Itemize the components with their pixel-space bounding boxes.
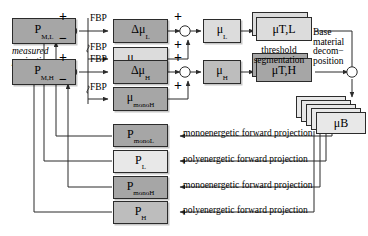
node-p-high: PH — [113, 201, 168, 224]
figure-canvas: PM,L measured projections PM,H + − + − +… — [0, 0, 368, 236]
stack-sheet-1: μB — [316, 112, 366, 134]
wire-ph-feedback — [34, 82, 112, 212]
sign-plus-sum4-bottom: + — [174, 79, 182, 93]
sign-minus-sum2: − — [59, 73, 67, 87]
node-measured-low-label: PM,L — [35, 23, 54, 38]
label-monoenergetic-forward-projection-high: monoenergetic forward projection — [183, 180, 313, 190]
label-monoenergetic-forward-projection-low: monoenergetic forward projection — [183, 128, 313, 138]
label-polyenergetic-forward-projection-high: polyenergetic forward projection — [183, 205, 308, 215]
sign-minus-sum1: − — [59, 32, 67, 46]
node-mu-threshold-low: μT,L — [252, 12, 318, 44]
sign-plus-sum4-top: + — [174, 51, 182, 65]
node-p-low: PL — [113, 150, 168, 173]
sum-node-mul — [180, 26, 190, 36]
fbp-label-2: FBP — [90, 42, 107, 52]
node-p-monoH: PmonoH — [113, 176, 168, 199]
node-delta-mu-high: ΔμH — [113, 60, 168, 84]
wire-mub-to-ph — [180, 131, 314, 212]
node-mu-monoH: μmonoH — [113, 87, 168, 111]
label-polyenergetic-forward-projection-low: polyenergetic forward projection — [183, 154, 308, 164]
fbp-label-4: FBP — [90, 82, 107, 92]
fbp-label-1: FBP — [90, 13, 107, 23]
base-material-decomposition-caption: Base material decom− position — [313, 28, 365, 67]
node-p-monoL: PmonoL — [113, 124, 168, 147]
node-mu-low: μL — [203, 19, 241, 43]
sign-plus-sum1: + — [59, 10, 67, 24]
node-measured-high-label: PM,H — [34, 64, 54, 79]
node-delta-mu-low: ΔμL — [113, 19, 168, 43]
sign-plus-sum2: + — [59, 51, 67, 65]
bmd-junction — [347, 67, 357, 77]
sign-plus-sum3-top: + — [174, 10, 182, 24]
fbp-label-3: FBP — [90, 54, 107, 64]
sum-node-muh — [180, 67, 190, 77]
stack-sheet-front: μT,L — [256, 17, 312, 41]
